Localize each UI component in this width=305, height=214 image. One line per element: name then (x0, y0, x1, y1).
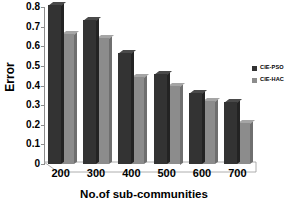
bar-side-face (61, 3, 64, 164)
y-tick-label: 0.7 (14, 22, 40, 32)
bar-side-face (202, 91, 205, 164)
bar-side-face (144, 74, 147, 164)
x-axis-tick-labels: 200300400500600700 (44, 168, 256, 184)
y-tick-label: 0.1 (14, 139, 40, 149)
x-tick-label: 400 (111, 168, 151, 179)
bar-cie-pso-300 (83, 20, 96, 164)
bar-group (48, 7, 74, 164)
legend-label: CIE-HAC (260, 77, 284, 83)
y-tick-mark (41, 144, 45, 145)
y-tick-mark (41, 46, 45, 47)
bar-group (154, 7, 180, 164)
y-tick-label: 0 (14, 159, 40, 169)
bar-side-face (180, 83, 183, 164)
y-tick-label: 0.2 (14, 120, 40, 130)
bar-side-face (131, 51, 134, 164)
x-tick-label: 700 (217, 168, 257, 179)
y-tick-mark (41, 164, 45, 165)
bar-cie-pso-700 (224, 102, 237, 164)
y-tick-mark (41, 125, 45, 126)
bar-side-face (250, 120, 253, 164)
x-tick-label: 500 (147, 168, 187, 179)
bar-group (83, 7, 109, 164)
bar-side-face (167, 71, 170, 164)
bar-side-face (109, 36, 112, 164)
legend-item-cie-hac: CIE-HAC (252, 75, 304, 85)
legend-label: CIE-PSO (260, 65, 284, 71)
y-axis-tick-labels: 00.10.20.30.40.50.60.70.8 (14, 7, 40, 164)
bar-group (224, 7, 250, 164)
bar-series-container (44, 7, 256, 164)
y-tick-mark (41, 86, 45, 87)
legend-swatch-icon (252, 66, 257, 71)
y-tick-label: 0.5 (14, 61, 40, 71)
legend-item-cie-pso: CIE-PSO (252, 63, 304, 73)
y-tick-label: 0.8 (14, 2, 40, 12)
bar-front-face (118, 53, 131, 164)
bar-front-face (189, 93, 202, 164)
chart-legend: CIE-PSOCIE-HAC (252, 63, 304, 87)
y-tick-mark (41, 27, 45, 28)
y-tick-label: 0.4 (14, 81, 40, 91)
plot-area (44, 7, 256, 164)
bar-cie-pso-200 (48, 5, 61, 164)
x-tick-label: 200 (41, 168, 81, 179)
bar-front-face (83, 20, 96, 164)
x-tick-label: 600 (182, 168, 222, 179)
bar-cie-pso-500 (154, 74, 167, 164)
x-axis-title: No.of sub-communities (24, 188, 264, 200)
bar-front-face (224, 102, 237, 164)
y-tick-mark (41, 7, 45, 8)
x-tick-label: 300 (76, 168, 116, 179)
bar-front-face (154, 74, 167, 164)
y-tick-mark (41, 66, 45, 67)
bar-cie-pso-600 (189, 93, 202, 164)
y-tick-mark (41, 105, 45, 106)
y-tick-label: 0.6 (14, 41, 40, 51)
bar-side-face (96, 17, 99, 164)
bar-side-face (215, 99, 218, 164)
bar-chart: Error 00.10.20.30.40.50.60.70.8 20030040… (0, 0, 305, 214)
y-tick-label: 0.3 (14, 100, 40, 110)
bar-cie-pso-400 (118, 53, 131, 164)
bar-side-face (74, 32, 77, 164)
bar-group (189, 7, 215, 164)
bar-group (118, 7, 144, 164)
bar-side-face (237, 100, 240, 164)
bar-front-face (48, 5, 61, 164)
legend-swatch-icon (252, 78, 257, 83)
